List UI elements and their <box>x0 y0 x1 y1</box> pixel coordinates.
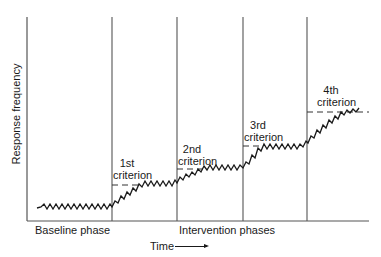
baseline-phase-label: Baseline phase <box>35 224 110 236</box>
criterion-2-word: criterion <box>178 155 206 167</box>
intervention-phases-label: Intervention phases <box>179 224 275 236</box>
criterion-label-3: 3rd criterion <box>244 119 272 143</box>
diagram-canvas <box>0 0 381 257</box>
criterion-label-4: 4th criterion <box>317 84 345 108</box>
y-axis-label: Response frequency <box>10 59 22 169</box>
time-label: Time <box>150 240 174 252</box>
criterion-3-ordinal: 3rd <box>244 119 272 131</box>
criterion-1-word: criterion <box>113 169 141 181</box>
criterion-label-1: 1st criterion <box>113 157 141 181</box>
criterion-4-word: criterion <box>317 96 345 108</box>
criterion-4-ordinal: 4th <box>317 84 345 96</box>
changing-criterion-diagram: Response frequency 1st criterion 2nd cri… <box>0 0 381 257</box>
arrow-right-icon <box>175 246 207 247</box>
criterion-label-2: 2nd criterion <box>178 143 206 167</box>
time-axis-label: Time <box>150 240 207 252</box>
criterion-1-ordinal: 1st <box>113 157 141 169</box>
criterion-2-ordinal: 2nd <box>178 143 206 155</box>
criterion-3-word: criterion <box>244 131 272 143</box>
